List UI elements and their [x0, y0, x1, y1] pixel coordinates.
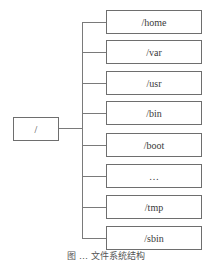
branch-connector — [82, 113, 106, 114]
branch-connector — [82, 176, 106, 177]
branch-connector — [82, 145, 106, 146]
child-node-bin: /bin — [106, 101, 202, 125]
child-node-var: /var — [106, 40, 202, 64]
figure-caption: 图 … 文件系统结构 — [0, 249, 212, 262]
child-node-label: /tmp — [145, 202, 163, 213]
child-node-label: /boot — [144, 140, 165, 151]
branch-connector — [82, 52, 106, 53]
child-node-label: … — [149, 171, 159, 182]
child-node-label: /usr — [147, 78, 162, 89]
branch-connector — [82, 83, 106, 84]
branch-connector — [82, 238, 106, 239]
root-connector — [59, 128, 83, 129]
vertical-bus — [82, 22, 83, 238]
branch-connector — [82, 22, 106, 23]
child-node-ellipsis: … — [106, 164, 202, 188]
child-node-sbin: /sbin — [106, 226, 202, 250]
root-node-label: / — [35, 124, 38, 135]
branch-connector — [82, 207, 106, 208]
child-node-label: /home — [142, 17, 167, 28]
child-node-home: /home — [106, 10, 202, 34]
child-node-boot: /boot — [106, 133, 202, 157]
child-node-label: /sbin — [144, 233, 163, 244]
child-node-usr: /usr — [106, 71, 202, 95]
root-node: / — [13, 117, 59, 141]
child-node-label: /var — [146, 47, 162, 58]
child-node-label: /bin — [146, 108, 162, 119]
child-node-tmp: /tmp — [106, 195, 202, 219]
